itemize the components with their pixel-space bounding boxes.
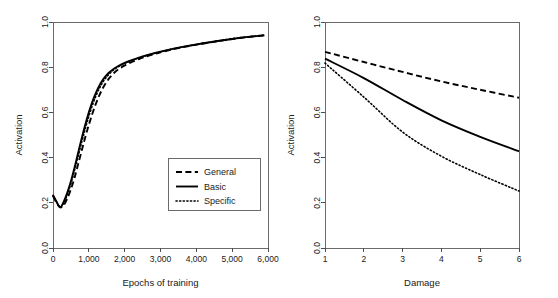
legend-label-specific: Specific bbox=[204, 196, 236, 206]
y-tick-label: 0.2 bbox=[312, 197, 322, 209]
legend-label-general: General bbox=[204, 167, 236, 177]
y-tick-label: 0.4 bbox=[40, 151, 50, 163]
right-data-series bbox=[325, 52, 519, 191]
y-tick-label: 0.2 bbox=[40, 197, 50, 209]
x-tick-label: 2 bbox=[361, 254, 366, 264]
right-x-axis-ticks bbox=[325, 248, 519, 252]
y-tick-label: 0.0 bbox=[312, 242, 322, 254]
x-tick-label: 4,000 bbox=[186, 254, 208, 264]
x-tick-label: 0 bbox=[51, 254, 56, 264]
chart-panel-left: 0.00.20.40.60.81.0 01,0002,0003,0004,000… bbox=[0, 0, 279, 298]
y-tick-label: 0.8 bbox=[40, 61, 50, 73]
x-tick-label: 1 bbox=[323, 254, 328, 264]
series-line-general bbox=[325, 52, 519, 98]
chart-panel-right: 0.00.20.40.60.81.0 123456 Activation Dam… bbox=[279, 0, 558, 298]
left-plot-frame bbox=[53, 22, 268, 248]
x-tick-label: 5,000 bbox=[222, 254, 244, 264]
x-tick-label: 5 bbox=[478, 254, 483, 264]
x-tick-label: 4 bbox=[439, 254, 444, 264]
left-y-axis-title: Activation bbox=[13, 114, 24, 155]
left-x-axis-ticks bbox=[53, 248, 268, 252]
x-tick-label: 6,000 bbox=[257, 254, 279, 264]
y-tick-label: 0.6 bbox=[40, 106, 50, 118]
right-x-tick-labels: 123456 bbox=[323, 254, 522, 264]
legend-label-basic: Basic bbox=[204, 182, 227, 192]
right-x-axis-title: Damage bbox=[404, 277, 440, 288]
right-y-axis-ticks bbox=[321, 22, 325, 248]
y-tick-label: 1.0 bbox=[312, 16, 322, 28]
figure-container: 0.00.20.40.60.81.0 01,0002,0003,0004,000… bbox=[0, 0, 558, 298]
y-tick-label: 0.8 bbox=[312, 61, 322, 73]
left-y-axis-ticks bbox=[49, 22, 53, 248]
x-tick-label: 6 bbox=[517, 254, 522, 264]
y-tick-label: 0.6 bbox=[312, 106, 322, 118]
right-panel-canvas: 0.00.20.40.60.81.0 123456 Activation Dam… bbox=[279, 0, 558, 298]
x-tick-label: 3 bbox=[400, 254, 405, 264]
y-tick-label: 0.4 bbox=[312, 151, 322, 163]
x-tick-label: 3,000 bbox=[150, 254, 172, 264]
left-x-tick-labels: 01,0002,0003,0004,0005,0006,000 bbox=[51, 254, 279, 264]
left-panel-canvas: 0.00.20.40.60.81.0 01,0002,0003,0004,000… bbox=[0, 0, 279, 298]
right-plot-frame bbox=[325, 22, 519, 248]
left-y-tick-labels: 0.00.20.40.60.81.0 bbox=[40, 16, 50, 254]
left-x-axis-title: Epochs of training bbox=[122, 277, 198, 288]
right-y-axis-title: Activation bbox=[285, 114, 296, 155]
right-y-tick-labels: 0.00.20.40.60.81.0 bbox=[312, 16, 322, 254]
series-line-basic bbox=[325, 59, 519, 152]
chart-legend: GeneralBasicSpecific bbox=[168, 158, 260, 210]
y-tick-label: 1.0 bbox=[40, 16, 50, 28]
series-line-specific bbox=[325, 63, 519, 191]
x-tick-label: 1,000 bbox=[78, 254, 100, 264]
y-tick-label: 0.0 bbox=[40, 242, 50, 254]
x-tick-label: 2,000 bbox=[114, 254, 136, 264]
